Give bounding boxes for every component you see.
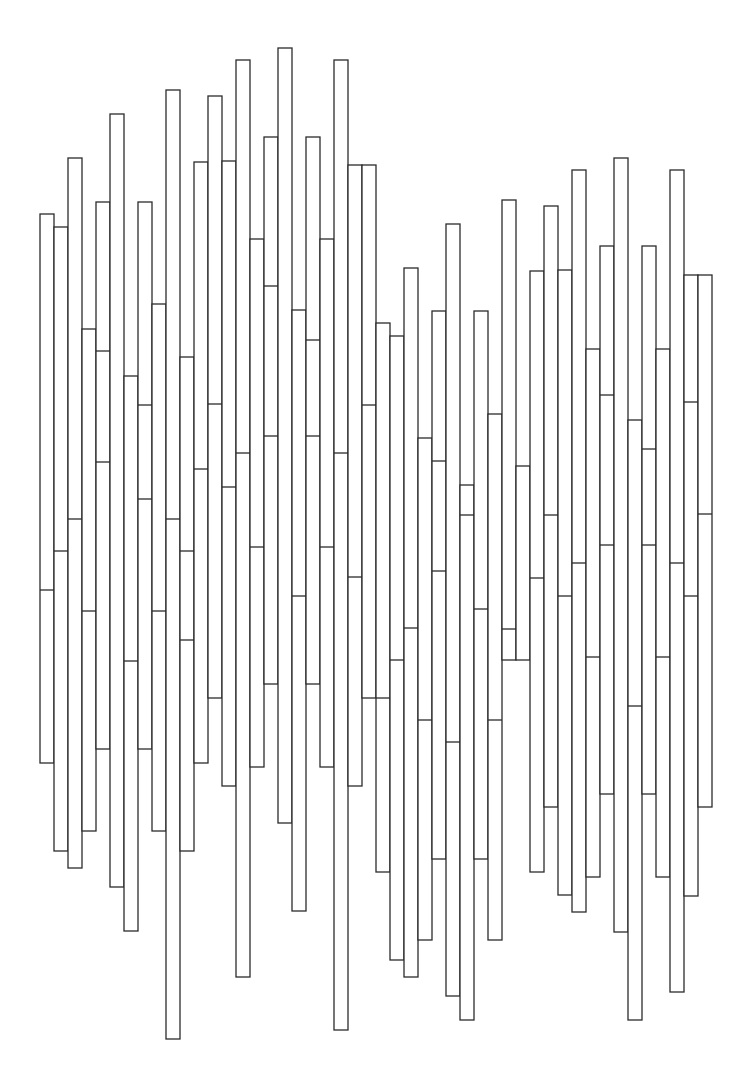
bar-rect [488,414,502,940]
bar-rect [460,485,474,1020]
bar-column [110,114,124,887]
bar-rect [292,310,306,911]
bar-rect [530,271,544,872]
bar-rect [446,224,460,996]
bar-rect [572,170,586,912]
bar-column [40,214,54,763]
bar-column [516,466,530,660]
bar-column [432,311,446,859]
bar-rect [320,239,334,767]
bar-column [586,349,600,877]
bar-column [82,329,96,831]
bar-rect [96,202,110,749]
bar-rect [404,268,418,977]
bar-rect [656,349,670,877]
bar-column [250,239,264,767]
bar-rect [138,202,152,749]
bar-column [96,202,110,749]
bar-rect [362,165,376,698]
bar-rect [82,329,96,831]
bar-rect [614,158,628,932]
bar-column [334,60,348,1030]
bar-column [180,357,194,851]
bar-rect [208,96,222,698]
bar-rect [110,114,124,887]
bar-column [600,246,614,794]
bar-column [306,137,320,684]
bar-column [166,90,180,1039]
bar-rect [418,438,432,940]
bar-rect [516,466,530,660]
bar-rect [600,246,614,794]
bar-column [502,200,516,660]
bar-rect [40,214,54,763]
bar-column [614,158,628,932]
bar-rect [166,90,180,1039]
bar-rect [264,137,278,684]
bar-column [446,224,460,996]
bar-column [68,158,82,868]
bar-rect [432,311,446,859]
bar-column [488,414,502,940]
bar-column [670,170,684,992]
bar-rect [250,239,264,767]
bar-rect [348,165,362,786]
bar-rect [502,200,516,660]
bar-column [530,271,544,872]
bar-rect [306,137,320,684]
bar-column [348,165,362,786]
bar-rect [278,48,292,823]
bar-column [460,485,474,1020]
bar-column [418,438,432,940]
bar-rect [376,323,390,872]
bar-rect [698,275,712,807]
bar-column [474,311,488,859]
bar-column [698,275,712,807]
bar-column [194,162,208,763]
bar-rect [558,270,572,895]
bar-column [656,349,670,877]
bar-rect [642,246,656,794]
bar-column [362,165,376,698]
bar-column [684,275,698,896]
bar-column [544,206,558,807]
bar-rect [152,304,166,831]
bar-column [236,60,250,977]
bar-rect [684,275,698,896]
bar-rect [474,311,488,859]
bar-rect [236,60,250,977]
bar-column [124,376,138,931]
bar-rect [194,162,208,763]
abstract-bar-artwork [0,0,755,1092]
bar-rect [124,376,138,931]
bar-column [558,270,572,895]
bar-column [208,96,222,698]
bar-column [642,246,656,794]
bar-column [152,304,166,831]
bar-rect [670,170,684,992]
bar-column [278,48,292,823]
bar-column [264,137,278,684]
bar-column [572,170,586,912]
bar-column [292,310,306,911]
bar-column [54,227,68,851]
bar-column [628,420,642,1020]
bar-rect [68,158,82,868]
bar-column [390,336,404,960]
bar-column [222,161,236,786]
bar-column [320,239,334,767]
bar-rect [390,336,404,960]
bar-rect [54,227,68,851]
bar-rect [586,349,600,877]
bar-column [404,268,418,977]
bar-column [376,323,390,872]
bar-columns [40,48,712,1039]
bar-rect [544,206,558,807]
bar-rect [180,357,194,851]
bar-rect [334,60,348,1030]
bar-rect [222,161,236,786]
bar-column [138,202,152,749]
bar-rect [628,420,642,1020]
